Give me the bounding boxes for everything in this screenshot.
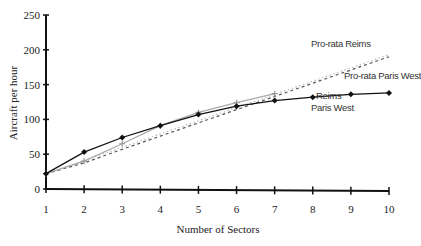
data-point-marker	[348, 91, 354, 97]
y-axis-title: Aircraft per hour	[7, 65, 19, 140]
x-tick-label: 4	[158, 203, 164, 215]
series-line-pro-rata-paris-west	[46, 57, 389, 174]
data-point-marker	[272, 91, 278, 97]
y-tick-label: 200	[24, 44, 41, 56]
x-tick-label: 8	[310, 203, 316, 215]
series-labels: Pro-rata Reims Pro-rata Paris West Reims…	[311, 38, 421, 113]
y-tick-label: 250	[24, 9, 41, 21]
y-tick-label: 150	[24, 79, 41, 91]
y-tick-label: 100	[24, 113, 41, 125]
y-tick-label: 0	[35, 183, 41, 195]
line-chart: 05010015020025012345678910 Pro-rata Reim…	[0, 0, 421, 246]
data-point-marker	[157, 123, 163, 129]
x-tick-label: 5	[196, 203, 202, 215]
series-line-pro-rata-reims	[46, 55, 389, 174]
data-point-marker	[81, 149, 87, 155]
label-pro-rata-paris-west: Pro-rata Paris West	[344, 70, 421, 81]
x-tick-label: 2	[81, 203, 87, 215]
x-tick-label: 9	[348, 203, 354, 215]
data-point-marker	[234, 103, 240, 109]
data-point-marker	[43, 171, 49, 177]
data-point-marker	[272, 98, 278, 104]
x-tick-label: 7	[272, 203, 278, 215]
label-reims: Reims	[316, 90, 342, 101]
data-point-marker	[119, 134, 125, 140]
y-tick-label: 50	[29, 148, 41, 160]
x-axis	[46, 189, 389, 191]
x-tick-label: 10	[384, 203, 396, 215]
x-tick-label: 3	[119, 203, 125, 215]
label-paris-west: Paris West	[311, 102, 354, 113]
x-tick-label: 6	[234, 203, 240, 215]
series-group	[43, 55, 392, 177]
data-point-marker	[119, 141, 125, 147]
x-tick-label: 1	[43, 203, 49, 215]
label-pro-rata-reims: Pro-rata Reims	[311, 38, 371, 49]
data-point-marker	[386, 90, 392, 96]
x-axis-title: Number of Sectors	[176, 223, 259, 235]
data-point-marker	[310, 94, 316, 100]
